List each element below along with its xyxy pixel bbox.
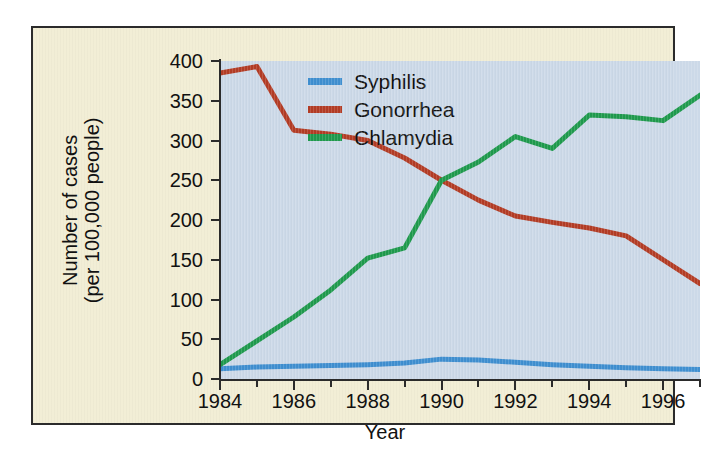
y-axis-tick-label: 50	[143, 329, 203, 349]
x-axis-tick-minor	[699, 381, 701, 387]
y-axis-tick	[211, 378, 219, 380]
y-axis-tick-label: 400	[143, 51, 203, 71]
y-axis-tick	[211, 60, 219, 62]
y-axis-tick-labels: 050100150200250300350400	[141, 28, 203, 427]
legend-label-chlamydia: Chlamydia	[354, 127, 453, 148]
y-axis-tick-label: 100	[143, 290, 203, 310]
x-axis-tick-labels: 1984198619881990199219941996	[33, 391, 677, 421]
x-axis-tick-minor	[551, 381, 553, 387]
x-axis-tick-major	[219, 381, 221, 390]
legend-label-gonorrhea: Gonorrhea	[354, 99, 454, 120]
legend-label-syphilis: Syphilis	[354, 71, 426, 92]
chart-frame: Syphilis Gonorrhea Chlamydia 05010015020…	[31, 26, 675, 425]
x-axis-tick-major	[293, 381, 295, 390]
y-axis-tick	[211, 259, 219, 261]
x-axis-tick-minor	[625, 381, 627, 387]
y-axis-tick	[211, 140, 219, 142]
x-axis-tick-label: 1994	[554, 391, 624, 411]
y-axis-tick-label: 250	[143, 170, 203, 190]
x-axis-tick-minor	[330, 381, 332, 387]
plot-area: Syphilis Gonorrhea Chlamydia	[220, 61, 700, 379]
x-axis-line	[219, 379, 701, 381]
y-axis-tick	[211, 100, 219, 102]
y-axis-title-line1: Number of cases	[59, 60, 81, 360]
x-axis-tick-major	[514, 381, 516, 390]
legend-swatch-chlamydia	[308, 134, 342, 141]
x-axis-tick-major	[441, 381, 443, 390]
y-axis-tick-label: 150	[143, 250, 203, 270]
chart-legend: Syphilis Gonorrhea Chlamydia	[308, 67, 548, 151]
x-axis-tick-minor	[404, 381, 406, 387]
y-axis-tick-label: 0	[143, 369, 203, 389]
legend-swatch-gonorrhea	[308, 106, 342, 113]
legend-item-chlamydia: Chlamydia	[308, 123, 548, 151]
chart-figure: Syphilis Gonorrhea Chlamydia 05010015020…	[0, 0, 703, 452]
x-axis-tick-major	[588, 381, 590, 390]
x-axis-title: Year	[33, 421, 677, 444]
legend-swatch-syphilis	[308, 78, 342, 85]
legend-item-syphilis: Syphilis	[308, 67, 548, 95]
series-line-syphilis	[220, 359, 700, 369]
x-axis-tick-minor	[477, 381, 479, 387]
x-axis-tick-major	[367, 381, 369, 390]
y-axis-tick	[211, 219, 219, 221]
y-axis-title: Number of cases (per 100,000 people)	[59, 60, 104, 360]
x-axis-tick-major	[662, 381, 664, 390]
y-axis-tick-label: 200	[143, 210, 203, 230]
x-axis-tick-label: 1996	[628, 391, 698, 411]
y-axis-line	[219, 59, 221, 381]
y-axis-tick	[211, 179, 219, 181]
x-axis-tick-label: 1986	[259, 391, 329, 411]
y-axis-tick-label: 350	[143, 91, 203, 111]
x-axis-tick-label: 1988	[333, 391, 403, 411]
y-axis-tick	[211, 338, 219, 340]
x-axis-tick-minor	[256, 381, 258, 387]
legend-item-gonorrhea: Gonorrhea	[308, 95, 548, 123]
y-axis-title-line2: (per 100,000 people)	[81, 60, 103, 360]
x-axis-tick-label: 1984	[185, 391, 255, 411]
x-axis-tick-label: 1990	[407, 391, 477, 411]
y-axis-tick	[211, 299, 219, 301]
y-axis-tick-label: 300	[143, 131, 203, 151]
x-axis-title-text: Year	[365, 421, 405, 443]
x-axis-tick-label: 1992	[480, 391, 550, 411]
